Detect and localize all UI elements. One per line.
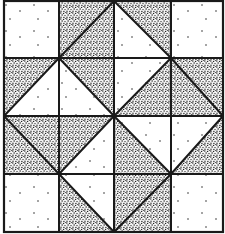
corner-square-top-right: [171, 1, 223, 58]
corner-square-bottom-left: [4, 174, 59, 232]
corner-square-bottom-right: [171, 174, 223, 232]
quilt-block-diagram: [0, 0, 225, 234]
corner-square-top-left: [4, 1, 59, 58]
